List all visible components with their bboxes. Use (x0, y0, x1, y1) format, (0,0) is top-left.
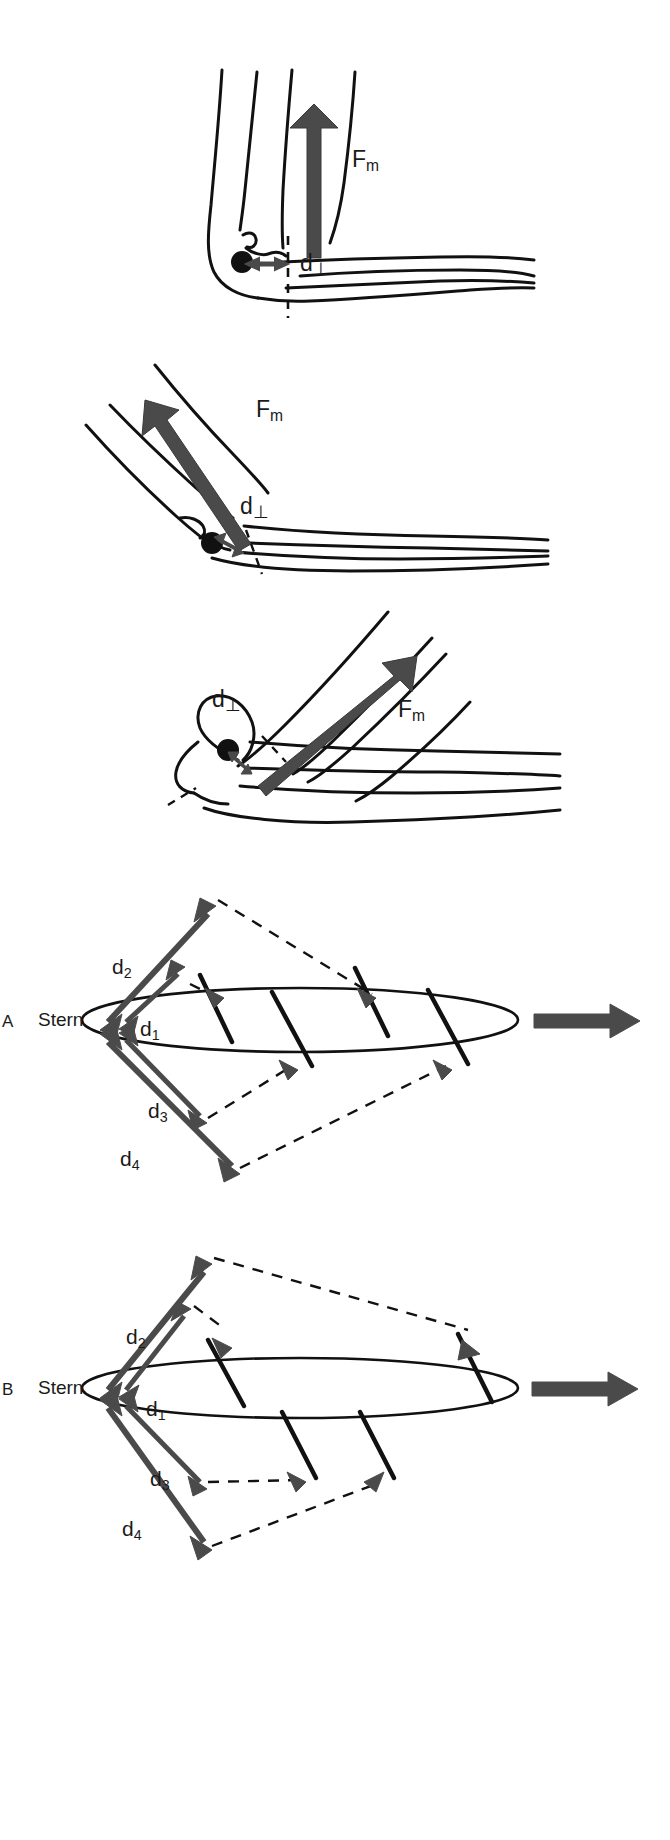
cranial-direction-arrow (532, 1372, 638, 1406)
vector-label-d4-a: d4 (120, 1148, 140, 1172)
radius-inferior-border (300, 270, 534, 276)
vector-label-d4-b: d4 (122, 1518, 142, 1542)
elbow-extended-drawing (0, 0, 670, 330)
elbow-flexed-drawing (0, 590, 670, 850)
radius-superior-border (250, 742, 560, 754)
rib-tick-3 (282, 1412, 316, 1478)
construction-dashed-lines (194, 1258, 468, 1546)
ribcage-panel-b: B Stern d2 d1 d3 d4 (0, 1230, 670, 1570)
vector-label-d3-a: d3 (148, 1100, 168, 1124)
moment-arm-vector-lower-right (364, 1472, 384, 1492)
force-label-panel2: Fm (256, 398, 283, 424)
ribcage-a-drawing (0, 870, 670, 1200)
vector-label-d2-b: d2 (126, 1326, 146, 1350)
trochlea-outline (246, 248, 286, 256)
moment-arm-label-panel3: d⊥ (212, 688, 241, 715)
rib-ticks-upper (208, 1334, 492, 1406)
rib-tick-1 (200, 975, 232, 1042)
rib-tick-4 (360, 1412, 394, 1478)
moment-arm-vector-d1 (119, 1302, 191, 1404)
elbow-panel-mid-flexion: Fm d⊥ (0, 330, 670, 590)
force-label-panel3: Fm (398, 698, 425, 724)
vector-label-d2-a: d2 (112, 956, 132, 980)
trochlea-outline (194, 793, 228, 804)
moment-arm-label-panel1: d⊥ (300, 252, 329, 279)
vector-label-d3-b: d3 (150, 1468, 170, 1492)
panel-letter-b: B (2, 1380, 13, 1400)
moment-arm-vector-d3-branch (287, 1472, 306, 1492)
vector-label-d1-a: d1 (140, 1018, 160, 1042)
moment-arm-vector-lower-right (433, 1060, 452, 1080)
humerus-posterior-contour (308, 654, 446, 782)
ulna-superior-border (240, 786, 560, 793)
moment-arm-vector-d2 (100, 1256, 212, 1406)
moment-arm-vector-upper-right (458, 1340, 480, 1360)
moment-arm-label-panel2: d⊥ (240, 495, 269, 522)
olecranon-notch (243, 233, 256, 248)
force-label-panel1: Fm (352, 148, 379, 174)
humerus-medial-contour (240, 72, 257, 230)
elbow-mid-flexion-drawing (0, 330, 670, 590)
vector-label-d1-b: d1 (146, 1398, 166, 1422)
rib-ticks-lower (282, 1412, 394, 1478)
figure-canvas: Fm d⊥ (0, 0, 670, 1840)
sternum-label-b: Stern (38, 1378, 83, 1397)
ulna-superior-border (286, 281, 534, 288)
rib-tick-3 (272, 992, 312, 1066)
ribcage-panel-a: A Stern d2 d1 d3 d4 (0, 870, 670, 1200)
ribcage-b-drawing (0, 1230, 670, 1570)
radius-superior-border (244, 526, 548, 540)
moment-arm-vector-d3-branch (279, 1060, 298, 1080)
olecranon-contour (176, 742, 198, 793)
triceps-anterior-edge (282, 70, 292, 248)
ulna-inferior-border (204, 808, 560, 822)
muscle-force-arrow (290, 104, 338, 258)
elbow-panel-flexed: Fm d⊥ (0, 590, 670, 850)
ulna-inferior-border (258, 288, 534, 302)
cranial-direction-arrow (534, 1004, 640, 1038)
ulna-superior-border (236, 552, 548, 559)
muscle-force-arrow (142, 400, 251, 551)
sternum-label-a: Stern (38, 1010, 83, 1029)
rib-tick-4 (428, 990, 468, 1064)
olecranon-notch (180, 517, 205, 538)
radius-inferior-border (250, 543, 548, 551)
elbow-panel-extended: Fm d⊥ (0, 0, 670, 330)
panel-letter-a: A (2, 1012, 13, 1032)
